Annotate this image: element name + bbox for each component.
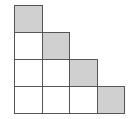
unshaded-square <box>14 86 43 114</box>
staircase-grid <box>14 5 124 113</box>
shaded-square <box>14 5 43 33</box>
unshaded-square <box>14 32 43 60</box>
unshaded-square <box>42 59 71 87</box>
unshaded-square <box>14 59 43 87</box>
shaded-square <box>42 32 71 60</box>
unshaded-square <box>42 86 71 114</box>
shaded-square <box>69 59 98 87</box>
shaded-square <box>97 86 126 114</box>
unshaded-square <box>69 86 98 114</box>
